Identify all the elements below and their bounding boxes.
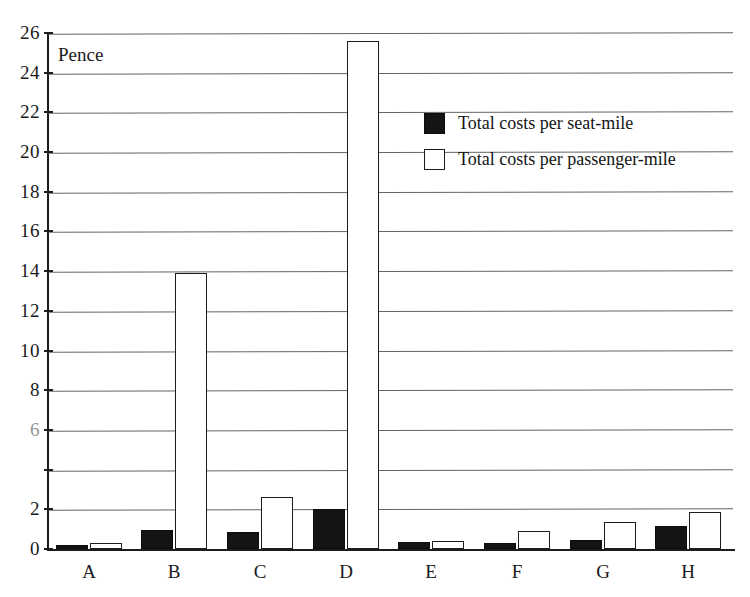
y-axis-label: 16 xyxy=(0,221,40,240)
gridline xyxy=(48,389,733,391)
legend-swatch-passenger-mile-icon xyxy=(424,149,445,170)
gridline xyxy=(48,32,733,34)
x-axis-label-a: A xyxy=(59,562,119,581)
y-axis-tick xyxy=(44,111,53,113)
y-axis-tick xyxy=(44,548,53,550)
y-axis-tick xyxy=(44,230,53,232)
gridline xyxy=(48,191,733,193)
bar-passenger-mile-f xyxy=(518,531,550,549)
gridline xyxy=(48,270,733,272)
y-axis-tick xyxy=(44,151,53,153)
bar-seat-mile-h xyxy=(655,526,687,549)
y-axis-tick xyxy=(44,72,53,74)
y-axis-label: 8 xyxy=(0,380,40,399)
x-axis-label-e: E xyxy=(401,562,461,581)
y-axis-tick xyxy=(44,469,53,471)
bar-passenger-mile-c xyxy=(261,497,293,549)
y-axis-tick xyxy=(44,389,53,391)
gridline xyxy=(48,72,733,74)
bar-passenger-mile-e xyxy=(432,541,464,549)
bar-seat-mile-c xyxy=(227,532,259,549)
y-axis-tick xyxy=(44,32,53,34)
y-axis-tick xyxy=(44,310,53,312)
y-axis-label: 26 xyxy=(0,23,40,42)
x-axis-label-f: F xyxy=(487,562,547,581)
gridline xyxy=(48,508,733,510)
y-axis-label: 10 xyxy=(0,341,40,360)
bar-seat-mile-d xyxy=(313,509,345,549)
bar-passenger-mile-d xyxy=(347,41,379,549)
y-axis-label: 18 xyxy=(0,182,40,201)
bar-passenger-mile-a xyxy=(90,543,122,549)
legend-item-seat-mile: Total costs per seat-mile xyxy=(424,108,714,138)
x-axis-label-b: B xyxy=(144,562,204,581)
y-axis-tick xyxy=(44,350,53,352)
legend-swatch-seat-mile-icon xyxy=(424,113,445,134)
bar-passenger-mile-g xyxy=(604,522,636,549)
y-axis-label: 22 xyxy=(0,102,40,121)
y-axis-unit-note: Pence xyxy=(58,45,103,64)
gridline xyxy=(48,230,733,232)
y-axis-tick xyxy=(44,270,53,272)
bar-passenger-mile-b xyxy=(175,273,207,549)
legend: Total costs per seat-mile Total costs pe… xyxy=(424,108,714,180)
bar-seat-mile-a xyxy=(56,545,88,549)
y-axis-label: 24 xyxy=(0,63,40,82)
x-axis-label-c: C xyxy=(230,562,290,581)
y-axis-tick xyxy=(44,508,53,510)
legend-item-passenger-mile: Total costs per passenger-mile xyxy=(424,144,714,174)
bar-seat-mile-f xyxy=(484,543,516,549)
bar-seat-mile-g xyxy=(570,540,602,549)
y-axis-label: 14 xyxy=(0,261,40,280)
y-axis-label: 6 xyxy=(0,420,40,439)
y-axis-label: 2 xyxy=(0,499,40,518)
legend-label-seat-mile: Total costs per seat-mile xyxy=(458,113,633,133)
bar-seat-mile-e xyxy=(398,542,430,549)
gridline xyxy=(48,469,733,471)
y-axis-tick xyxy=(44,191,53,193)
y-axis-label: 12 xyxy=(0,301,40,320)
gridline xyxy=(48,310,733,312)
bar-passenger-mile-h xyxy=(689,512,721,549)
x-axis-label-g: G xyxy=(573,562,633,581)
x-axis-label-d: D xyxy=(316,562,376,581)
bar-chart: 02468101214161820222426 Pence ABCDEFGH T… xyxy=(0,0,750,597)
gridline xyxy=(48,429,733,431)
y-axis-label: 0 xyxy=(0,539,40,558)
y-axis-tick xyxy=(44,429,53,431)
y-axis-label: 20 xyxy=(0,142,40,161)
gridline xyxy=(48,350,733,352)
x-axis-label-h: H xyxy=(658,562,718,581)
x-axis-line xyxy=(47,549,735,551)
legend-label-passenger-mile: Total costs per passenger-mile xyxy=(458,149,676,169)
bar-seat-mile-b xyxy=(141,530,173,549)
